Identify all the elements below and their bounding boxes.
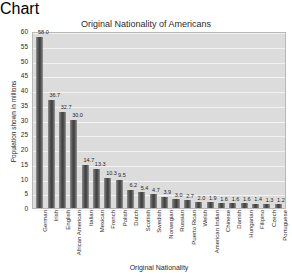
x-tick-slot: Swedish <box>148 210 159 264</box>
x-tick-slot: Puerto Rican <box>182 210 193 264</box>
bar-slot: 36.7 <box>45 33 56 208</box>
bar <box>229 203 236 208</box>
bar <box>252 204 259 208</box>
bar-slot: 1.9 <box>204 33 215 208</box>
bar-slot: 14.7 <box>79 33 90 208</box>
bar <box>104 178 111 208</box>
y-axis-tick: 30 <box>21 117 28 124</box>
x-tick-slot: Scottish <box>136 210 147 264</box>
x-tick-slot: Chinese <box>216 210 227 264</box>
y-axis-tick: 0 <box>24 206 28 213</box>
x-tick-slot: Dutch <box>125 210 136 264</box>
bar-slot: 6.2 <box>125 33 136 208</box>
x-tick-slot: Norwegian <box>159 210 170 264</box>
x-tick-slot: Polish <box>113 210 124 264</box>
x-tick-slot: Welsh <box>193 210 204 264</box>
x-tick-slot: Russian <box>170 210 181 264</box>
x-tick-slot: Italian <box>79 210 90 264</box>
x-tick-slot: American Indian <box>205 210 216 264</box>
x-axis-tick-labels: GermanIrishEnglishAfrican AmericanItalia… <box>32 210 286 264</box>
bar <box>48 100 55 208</box>
bar-slot: 1.6 <box>227 33 238 208</box>
bar <box>59 112 66 208</box>
bar <box>172 199 179 208</box>
y-axis-tick: 50 <box>21 58 28 65</box>
bar-slot: 9.5 <box>114 33 125 208</box>
bar-slot: 1.2 <box>273 33 284 208</box>
bar <box>263 204 270 208</box>
bar <box>241 203 248 208</box>
y-axis-tick: 10 <box>21 176 28 183</box>
y-axis-tick: 15 <box>21 162 28 169</box>
x-tick-slot: Hungarian <box>239 210 250 264</box>
bar <box>184 200 191 208</box>
bar <box>275 204 282 208</box>
bar-slot: 13.3 <box>91 33 102 208</box>
bar-slot: 1.4 <box>250 33 261 208</box>
x-tick-slot: Filipino <box>251 210 262 264</box>
x-tick-slot: Mexican <box>90 210 101 264</box>
bar-slot: 58.0 <box>34 33 45 208</box>
x-tick-slot: Czech <box>262 210 273 264</box>
x-tick-slot: Irish <box>44 210 55 264</box>
bar-slot: 1.3 <box>261 33 272 208</box>
x-axis-tick: Portuguese <box>282 210 288 241</box>
bar-slot: 1.6 <box>238 33 249 208</box>
y-axis-tick: 5 <box>24 191 28 198</box>
y-axis-tick: 20 <box>21 147 28 154</box>
y-axis-tick: 35 <box>21 103 28 110</box>
bar <box>195 202 202 208</box>
x-tick-slot: Portuguese <box>274 210 285 264</box>
y-axis-tick: 25 <box>21 132 28 139</box>
bar-slot: 3.0 <box>170 33 181 208</box>
bar <box>93 169 100 208</box>
bar-slot: 10.3 <box>102 33 113 208</box>
bar <box>150 194 157 208</box>
x-tick-slot: German <box>33 210 44 264</box>
bar-slot: 30.0 <box>68 33 79 208</box>
x-tick-slot: African American <box>67 210 78 264</box>
bar-slot: 32.7 <box>57 33 68 208</box>
bar-value-label: 1.2 <box>277 198 285 204</box>
x-axis-title: Original Nationality <box>32 264 286 271</box>
y-axis-tick: 40 <box>21 88 28 95</box>
bar-slot: 5.4 <box>136 33 147 208</box>
x-tick-slot: English <box>56 210 67 264</box>
bar-slot: 3.9 <box>159 33 170 208</box>
bar-slot: 2.7 <box>182 33 193 208</box>
bar <box>161 197 168 209</box>
x-tick-slot: French <box>102 210 113 264</box>
bar <box>36 37 43 208</box>
bar <box>218 203 225 208</box>
bar <box>138 192 145 208</box>
y-axis-tick: 60 <box>21 29 28 36</box>
bar-chart: Original Nationality of Americans Popula… <box>0 18 292 276</box>
bar-series: 58.036.732.730.014.713.310.39.56.25.44.7… <box>33 33 285 208</box>
bar <box>116 180 123 208</box>
bar <box>82 165 89 208</box>
bar-slot: 2.0 <box>193 33 204 208</box>
y-axis-tick: 55 <box>21 44 28 51</box>
bar-slot: 1.6 <box>216 33 227 208</box>
bar <box>207 202 214 208</box>
plot-area: 58.036.732.730.014.713.310.39.56.25.44.7… <box>32 32 286 209</box>
bar <box>70 120 77 209</box>
bar-slot: 4.7 <box>148 33 159 208</box>
bar <box>127 190 134 208</box>
y-axis-tick-labels: 051015202530354045505560 <box>0 32 31 209</box>
x-tick-slot: Danish <box>228 210 239 264</box>
y-axis-tick: 45 <box>21 73 28 80</box>
